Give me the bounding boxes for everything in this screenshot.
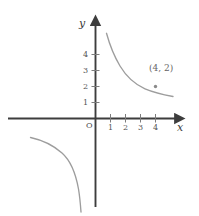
coordinate-plane-svg [0, 0, 199, 216]
x-tick-label-4: 4 [153, 124, 158, 132]
y-tick-label-4: 4 [83, 51, 88, 59]
y-axis-label: y [79, 18, 85, 29]
x-tick-label-2: 2 [123, 124, 128, 132]
hyperbola-graph-figure: 1 2 3 4 1 2 3 4 O y x (4, 2) [0, 0, 199, 216]
y-tick-label-2: 2 [83, 83, 88, 91]
x-axis-label: x [177, 122, 183, 133]
y-tick-label-1: 1 [83, 99, 88, 107]
x-tick-label-1: 1 [108, 124, 113, 132]
point-marker-4-2 [154, 85, 157, 88]
origin-label: O [86, 122, 93, 130]
point-annotation-label: (4, 2) [149, 64, 173, 73]
curve-branch-quadrant-iii [31, 138, 82, 213]
y-tick-label-3: 3 [83, 67, 88, 75]
x-tick-label-3: 3 [138, 124, 143, 132]
